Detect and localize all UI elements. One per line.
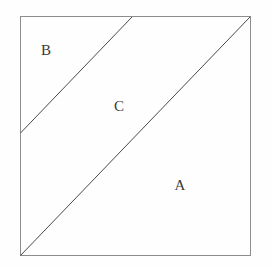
region-label-c: C <box>114 99 124 114</box>
main-diagonal-line <box>21 17 251 256</box>
region-label-a: A <box>175 178 186 193</box>
figure-svg <box>0 0 271 267</box>
upper-parallel-diagonal-line <box>21 17 133 133</box>
diagram-canvas: B C A <box>0 0 271 267</box>
region-label-b: B <box>41 43 51 58</box>
